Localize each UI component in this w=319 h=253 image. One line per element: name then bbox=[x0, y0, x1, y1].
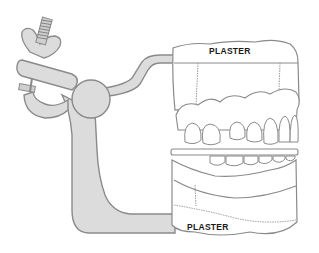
articulator-upper-arm bbox=[104, 55, 175, 96]
lower-teeth bbox=[210, 156, 295, 166]
lower-screw bbox=[19, 78, 36, 92]
plaster-label-bottom: PLASTER bbox=[187, 222, 229, 232]
articulator-diagram bbox=[0, 0, 319, 253]
hinge-ball bbox=[72, 80, 110, 118]
plaster-label-top: PLASTER bbox=[209, 46, 251, 56]
clamp-curl bbox=[24, 92, 68, 118]
articulator-frame bbox=[62, 95, 175, 233]
occlusal-plane-bar bbox=[171, 149, 298, 155]
